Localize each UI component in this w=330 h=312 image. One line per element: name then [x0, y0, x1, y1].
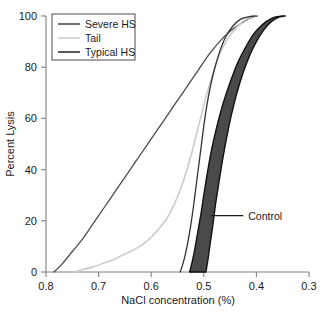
y-axis-tick-labels: 020406080100: [19, 10, 37, 278]
x-axis-title: NaCl concentration (%): [121, 294, 235, 306]
x-tick-label: 0.7: [91, 280, 106, 292]
y-axis-ticks: [41, 16, 46, 272]
x-axis-tick-labels: 0.80.70.60.50.40.3: [38, 280, 316, 292]
legend-label-tail: Tail: [85, 32, 101, 44]
osmotic-fragility-chart: 020406080100 0.80.70.60.50.40.3 Control …: [0, 0, 330, 312]
x-tick-label: 0.4: [249, 280, 264, 292]
y-tick-label: 0: [31, 266, 37, 278]
legend-label-severe-hs: Severe HS: [85, 18, 136, 30]
x-tick-label: 0.5: [196, 280, 211, 292]
y-tick-label: 20: [25, 215, 37, 227]
control-band: [190, 16, 286, 272]
y-tick-label: 40: [25, 164, 37, 176]
y-tick-label: 100: [19, 10, 37, 22]
chart-canvas: 020406080100 0.80.70.60.50.40.3 Control …: [0, 0, 330, 312]
legend-label-typical-hs: Typical HS: [85, 46, 135, 58]
control-band-group: [190, 16, 286, 272]
y-tick-label: 80: [25, 61, 37, 73]
x-tick-label: 0.3: [301, 280, 316, 292]
x-axis-ticks: [46, 272, 309, 277]
y-axis-title: Percent Lysis: [4, 111, 16, 177]
x-tick-label: 0.6: [144, 280, 159, 292]
control-annotation-label: Control: [248, 210, 282, 222]
x-tick-label: 0.8: [38, 280, 53, 292]
legend: Severe HSTailTypical HS: [52, 14, 136, 60]
y-tick-label: 60: [25, 112, 37, 124]
control-annotation: Control: [211, 210, 282, 222]
